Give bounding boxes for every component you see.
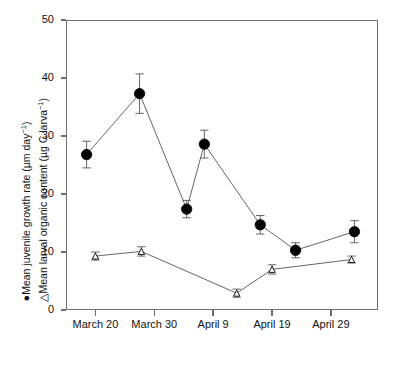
x-tick-mark xyxy=(154,310,155,316)
y-tick-label: 10 xyxy=(28,246,54,257)
legend-marker-circle: ● xyxy=(20,295,32,302)
exponent-1: −1 xyxy=(19,125,28,134)
plot-area xyxy=(66,20,378,310)
y-tick-mark xyxy=(61,77,66,78)
x-tick-mark xyxy=(212,310,213,316)
y-tick-label: 20 xyxy=(28,188,54,199)
y-tick-label: 50 xyxy=(28,14,54,25)
x-tick-mark xyxy=(330,310,331,316)
y-tick-label: 40 xyxy=(28,72,54,83)
y-axis-title-line-1-close: ) xyxy=(20,121,32,125)
legend-marker-triangle: △ xyxy=(37,294,49,302)
y-axis-title-line-1: ●Mean juvenile growth rate (µm day−1) xyxy=(17,52,34,302)
x-tick-mark xyxy=(95,310,96,316)
y-tick-mark xyxy=(61,251,66,252)
y-tick-label: 0 xyxy=(28,304,54,315)
y-tick-mark xyxy=(61,193,66,194)
x-tick-label: April 29 xyxy=(291,318,371,330)
exponent-2: −1 xyxy=(35,101,44,110)
y-tick-mark xyxy=(61,19,66,20)
y-axis-title: ●Mean juvenile growth rate (µm day−1) △M… xyxy=(17,52,50,302)
chart-figure: ●Mean juvenile growth rate (µm day−1) △M… xyxy=(0,0,401,368)
y-axis-title-line-2-close: ) xyxy=(37,98,49,102)
y-tick-mark xyxy=(61,135,66,136)
y-axis-title-line-2: △Mean larval organic content (µg C larva… xyxy=(33,52,50,302)
y-tick-label: 30 xyxy=(28,130,54,141)
y-axis-title-line-1-text: Mean juvenile growth rate (µm day xyxy=(20,134,32,295)
x-tick-mark xyxy=(271,310,272,316)
y-tick-mark xyxy=(61,309,66,310)
